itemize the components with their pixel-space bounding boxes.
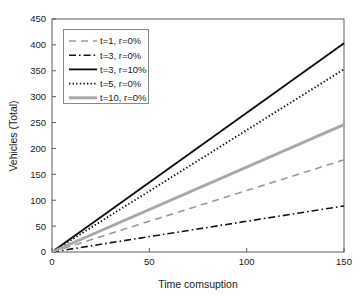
y-tick-label: 100 bbox=[30, 195, 46, 206]
x-tick-label: 0 bbox=[49, 256, 54, 267]
x-tick-label: 150 bbox=[336, 256, 352, 267]
x-tick-label: 50 bbox=[144, 256, 155, 267]
legend-label: t=3, r=10% bbox=[100, 64, 147, 75]
legend-label: t=5, r=0% bbox=[100, 78, 142, 89]
y-tick-label: 450 bbox=[30, 13, 46, 24]
line-chart: 050100150200250300350400450 050100150 Ti… bbox=[0, 0, 362, 297]
y-axis-title: Vehicles (Total) bbox=[7, 100, 19, 171]
y-tick-label: 200 bbox=[30, 143, 46, 154]
x-axis-title: Time comsuption bbox=[158, 278, 238, 290]
y-tick-label: 250 bbox=[30, 117, 46, 128]
y-tick-label: 50 bbox=[35, 221, 46, 232]
y-tick-label: 0 bbox=[41, 246, 46, 257]
legend-label: t=3, r=0% bbox=[100, 50, 142, 61]
legend-label: t=10, r=0% bbox=[100, 92, 147, 103]
x-tick-label: 100 bbox=[239, 256, 255, 267]
y-tick-label: 350 bbox=[30, 65, 46, 76]
y-tick-label: 400 bbox=[30, 39, 46, 50]
legend-label: t=1, r=0% bbox=[100, 35, 142, 46]
chart-figure: 050100150200250300350400450 050100150 Ti… bbox=[0, 0, 362, 297]
y-tick-label: 150 bbox=[30, 169, 46, 180]
y-tick-label: 300 bbox=[30, 91, 46, 102]
legend: t=1, r=0%t=3, r=0%t=3, r=10%t=5, r=0%t=1… bbox=[64, 30, 149, 104]
